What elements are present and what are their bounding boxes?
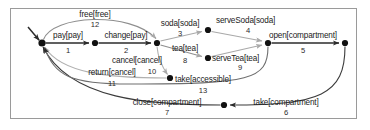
edge-label-soda: soda[soda] [161, 20, 200, 29]
edge-num-open: 5 [301, 47, 305, 55]
edge-num-take-compartment: 6 [284, 109, 288, 117]
edge-num-soda: 3 [178, 30, 182, 38]
edge-num-take-accessible: 13 [199, 87, 207, 95]
edge-label-serve-soda: serveSoda[soda] [216, 17, 275, 26]
edge-num-tea: 8 [183, 57, 187, 65]
edge-num-free: 12 [91, 21, 99, 29]
edge-num-change: 2 [124, 47, 128, 55]
edge-num-serve-soda: 4 [246, 27, 250, 35]
edge-label-free: free[free] [79, 11, 110, 20]
edge-num-close: 7 [165, 109, 169, 117]
edge-label-close: close[compartment] [133, 99, 202, 108]
edge-label-take-compartment: take[compartment] [253, 99, 318, 108]
edge-label-pay: pay[pay] [53, 32, 83, 41]
edge-num-serve-tea: 9 [238, 64, 242, 72]
edge-label-change: change[pay] [105, 32, 148, 41]
diagram-root: free[free] 12 pay[pay] 1 change[pay] 2 s… [0, 0, 370, 130]
edge-label-take-accessible: take[accessible] [175, 76, 231, 85]
edge-num-cancel: 10 [148, 68, 156, 76]
edge-label-serve-tea: serveTea[tea] [212, 55, 259, 64]
edge-label-cancel: cancel[cancel] [112, 57, 162, 66]
edge-num-return: 11 [108, 80, 116, 88]
edge-label-tea: tea[tea] [172, 45, 198, 54]
edge-label-return: return[cancel] [88, 69, 136, 78]
edge-label-open: open[compartment] [269, 32, 337, 41]
edge-num-pay: 1 [66, 47, 70, 55]
